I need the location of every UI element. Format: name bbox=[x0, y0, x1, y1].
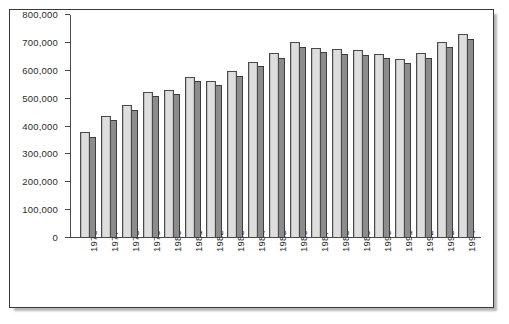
bar-series-1 bbox=[164, 90, 174, 237]
y-axis-tick: 400,000 bbox=[65, 126, 70, 127]
x-axis-label-cell: 1976 bbox=[77, 239, 98, 301]
chart-figure: 800,000700,000600,000500,000400,000300,0… bbox=[9, 9, 494, 308]
bar-group bbox=[351, 15, 372, 237]
bar-series-1 bbox=[143, 92, 153, 237]
bar-series-1 bbox=[374, 54, 384, 237]
bar-group bbox=[161, 15, 182, 237]
bar-series-1 bbox=[458, 34, 468, 237]
y-axis-tick: 500,000 bbox=[65, 98, 70, 99]
x-axis-label-cell: 1979 bbox=[140, 239, 161, 301]
bar-series-1 bbox=[353, 50, 363, 237]
bar-group bbox=[435, 15, 456, 237]
bar-series-1 bbox=[122, 105, 132, 237]
bar-group bbox=[224, 15, 245, 237]
bar-series-1 bbox=[437, 42, 447, 237]
y-axis-tick-label: 0 bbox=[53, 232, 58, 243]
y-axis-tick: 200,000 bbox=[65, 181, 70, 182]
bar-group bbox=[456, 15, 477, 237]
bar-series-1 bbox=[332, 49, 342, 237]
bar-group bbox=[309, 15, 330, 237]
bar-series-1 bbox=[269, 53, 279, 237]
x-axis-label-cell: 1989 bbox=[351, 239, 372, 301]
bar-series-1 bbox=[206, 81, 216, 237]
y-axis-tick-label: 400,000 bbox=[22, 120, 58, 131]
x-axis-label-cell: 1993 bbox=[435, 239, 456, 301]
bar-group bbox=[119, 15, 140, 237]
bar-series-1 bbox=[101, 116, 111, 237]
y-axis-tick-label: 200,000 bbox=[22, 176, 58, 187]
x-axis-label-cell: 1978 bbox=[119, 239, 140, 301]
bar-series-1 bbox=[395, 59, 405, 237]
bar-group bbox=[372, 15, 393, 237]
bar-group bbox=[140, 15, 161, 237]
x-axis-label-cell: 1980 bbox=[161, 239, 182, 301]
y-axis-tick: 600,000 bbox=[65, 70, 70, 71]
bar-series-1 bbox=[80, 132, 90, 237]
x-axis-label-cell: 1991 bbox=[393, 239, 414, 301]
x-axis-labels: 1976197719781979198019811982198319841985… bbox=[71, 239, 481, 301]
bar-group bbox=[287, 15, 308, 237]
bar-group bbox=[414, 15, 435, 237]
y-axis-tick-label: 300,000 bbox=[22, 148, 58, 159]
bar-series-1 bbox=[416, 53, 426, 237]
bar-group bbox=[245, 15, 266, 237]
bar-series-1 bbox=[311, 48, 321, 237]
y-axis-tick-label: 500,000 bbox=[22, 92, 58, 103]
x-axis-label-cell: 1992 bbox=[414, 239, 435, 301]
x-axis-label-cell: 1977 bbox=[98, 239, 119, 301]
bar-series-1 bbox=[248, 62, 258, 237]
y-axis-tick: 700,000 bbox=[65, 42, 70, 43]
bar-group bbox=[182, 15, 203, 237]
x-axis-label-cell: 1981 bbox=[182, 239, 203, 301]
y-axis-tick: 0 bbox=[65, 237, 70, 238]
x-axis-label-cell: 1982 bbox=[203, 239, 224, 301]
y-axis-tick: 800,000 bbox=[65, 14, 70, 15]
bar-group bbox=[98, 15, 119, 237]
bar-series-1 bbox=[290, 42, 300, 237]
bar-group bbox=[393, 15, 414, 237]
bar-group bbox=[203, 15, 224, 237]
bars-layer bbox=[71, 15, 481, 237]
bar-series-1 bbox=[227, 71, 237, 237]
bar-group bbox=[266, 15, 287, 237]
plot-area: 800,000700,000600,000500,000400,000300,0… bbox=[70, 15, 481, 238]
x-axis-label-cell: 1994 bbox=[456, 239, 477, 301]
x-axis-label-cell: 1985 bbox=[266, 239, 287, 301]
x-axis-label-cell: 1983 bbox=[224, 239, 245, 301]
bar-series-1 bbox=[185, 77, 195, 237]
y-axis-tick-label: 800,000 bbox=[22, 9, 58, 20]
x-axis-label-cell: 1988 bbox=[330, 239, 351, 301]
x-axis-label-cell: 1987 bbox=[309, 239, 330, 301]
y-axis-tick: 300,000 bbox=[65, 153, 70, 154]
bar-group bbox=[330, 15, 351, 237]
y-axis-tick-label: 100,000 bbox=[22, 204, 58, 215]
y-axis-tick-label: 700,000 bbox=[22, 36, 58, 47]
y-axis-tick-label: 600,000 bbox=[22, 64, 58, 75]
x-axis-label-cell: 1986 bbox=[287, 239, 308, 301]
y-axis-tick: 100,000 bbox=[65, 209, 70, 210]
x-axis-label-cell: 1990 bbox=[372, 239, 393, 301]
bar-group bbox=[77, 15, 98, 237]
x-axis-label-cell: 1984 bbox=[245, 239, 266, 301]
